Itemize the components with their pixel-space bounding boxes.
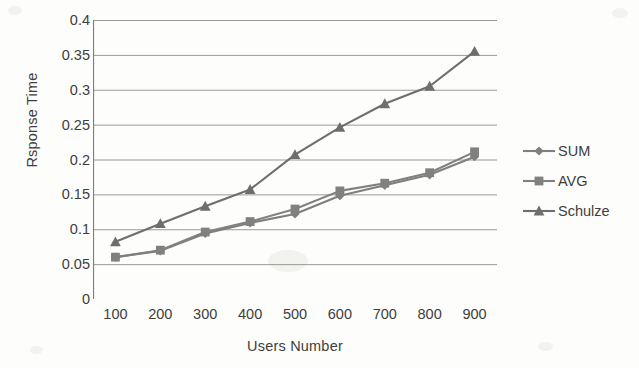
data-point-marker-diamond <box>534 146 543 155</box>
legend-marker-diamond-icon <box>522 142 556 160</box>
y-axis-tick-label: 0.35 <box>30 48 90 63</box>
legend-label: AVG <box>556 173 588 189</box>
legend-label: SUM <box>556 143 590 159</box>
legend-item-avg[interactable]: AVG <box>522 166 639 196</box>
data-point-marker-square <box>425 168 434 177</box>
data-point-marker-square <box>201 228 210 237</box>
y-axis-tick-label: 0.15 <box>30 187 90 202</box>
series-line-avg <box>115 152 474 257</box>
data-point-marker-square <box>535 177 544 186</box>
plot-area <box>93 20 497 299</box>
x-axis-title: Users Number <box>93 338 497 354</box>
y-axis-tick-label: 0.4 <box>30 13 90 28</box>
x-axis-tick-label: 200 <box>137 306 183 322</box>
x-axis-tick-label: 400 <box>227 306 273 322</box>
x-axis-tick-label: 100 <box>92 306 138 322</box>
y-axis-tick-label: 0.1 <box>30 222 90 237</box>
legend-label: Schulze <box>556 203 610 219</box>
y-axis-tick-label: 0 <box>30 292 90 307</box>
scan-artifact <box>612 8 628 18</box>
data-point-marker-square <box>246 217 255 226</box>
x-axis-tick-label: 500 <box>272 306 318 322</box>
y-axis-tick-label: 0.05 <box>30 257 90 272</box>
legend-marker-square-icon <box>522 172 556 190</box>
x-axis-tick-label: 300 <box>182 306 228 322</box>
chart-figure: Rsponse Time 00.050.10.150.20.250.30.350… <box>0 0 639 368</box>
data-point-marker-triangle <box>290 149 301 159</box>
data-point-marker-square <box>380 179 389 188</box>
x-axis-tick-label: 900 <box>452 306 498 322</box>
x-axis-tick-label: 800 <box>407 306 453 322</box>
x-axis-tick-label: 700 <box>362 306 408 322</box>
legend-marker-triangle-icon <box>522 202 556 220</box>
legend-item-schulze[interactable]: Schulze <box>522 196 639 226</box>
data-point-marker-triangle <box>469 46 480 56</box>
data-point-marker-square <box>335 186 344 195</box>
y-axis-tick-label: 0.2 <box>30 153 90 168</box>
legend-item-sum[interactable]: SUM <box>522 136 639 166</box>
chart-legend: SUMAVGSchulze <box>522 136 639 226</box>
plot-svg <box>93 20 497 299</box>
y-axis-tick-label: 0.25 <box>30 118 90 133</box>
series-avg <box>111 147 479 261</box>
scan-artifact <box>8 6 22 15</box>
scan-artifact <box>538 342 553 351</box>
data-point-marker-square <box>291 205 300 214</box>
data-point-marker-square <box>470 147 479 156</box>
data-point-marker-triangle <box>334 122 345 132</box>
x-axis-tick-label: 600 <box>317 306 363 322</box>
data-point-marker-square <box>156 246 165 255</box>
data-point-marker-square <box>111 253 120 262</box>
y-axis-tick-label: 0.3 <box>30 83 90 98</box>
scan-artifact <box>30 346 43 354</box>
